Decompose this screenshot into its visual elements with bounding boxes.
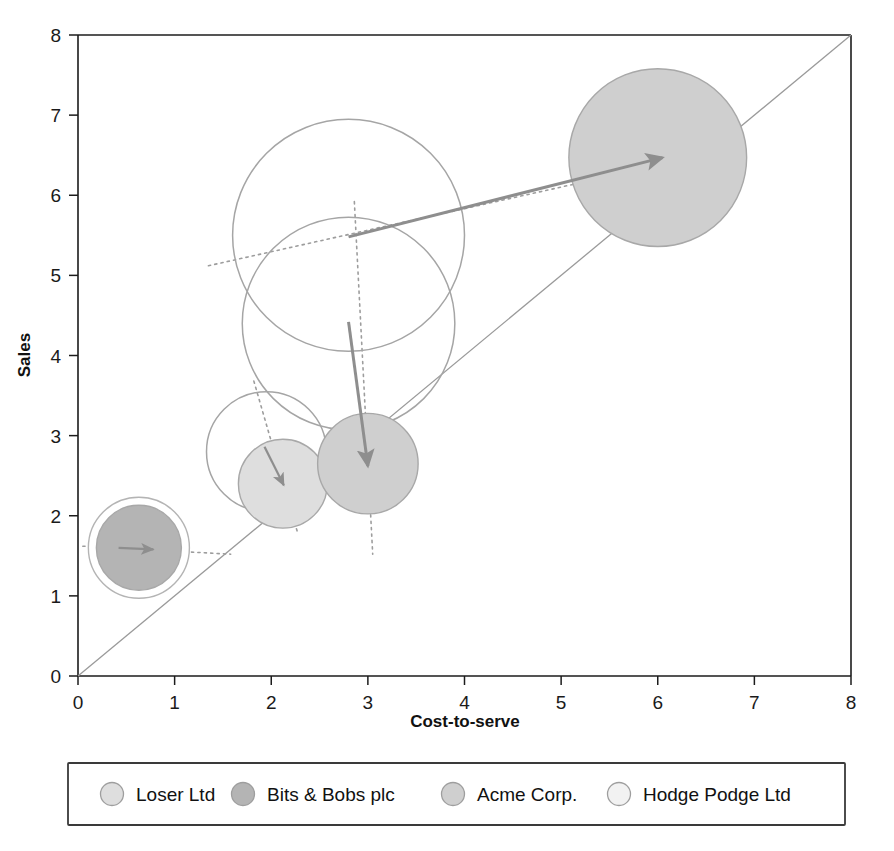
- y-tick-label-7: 7: [50, 105, 61, 126]
- y-tick-label-1: 1: [50, 586, 61, 607]
- legend-swatch-bits-bobs-plc: [232, 783, 255, 806]
- chart-canvas: 012345678012345678 Cost-to-serve Sales L…: [0, 0, 894, 851]
- bubble-hodge-podge-ltd-1[interactable]: [233, 119, 465, 351]
- x-tick-label-8: 8: [846, 692, 857, 713]
- legend-swatch-loser-ltd: [101, 783, 124, 806]
- legend-swatch-acme-corp: [442, 783, 465, 806]
- x-tick-label-3: 3: [363, 692, 374, 713]
- legend-item-loser-ltd[interactable]: Loser Ltd: [101, 783, 216, 806]
- x-tick-label-2: 2: [266, 692, 277, 713]
- y-tick-label-6: 6: [50, 185, 61, 206]
- legend-label-hodge-podge-ltd: Hodge Podge Ltd: [643, 784, 791, 805]
- y-tick-label-0: 0: [50, 666, 61, 687]
- legend-item-acme-corp[interactable]: Acme Corp.: [442, 783, 578, 806]
- y-tick-label-8: 8: [50, 25, 61, 46]
- x-axis-title: Cost-to-serve: [410, 712, 520, 731]
- y-axis-title: Sales: [15, 333, 34, 377]
- chart-legend: Loser LtdBits & Bobs plcAcme Corp.Hodge …: [68, 763, 845, 825]
- x-tick-label-0: 0: [73, 692, 84, 713]
- y-tick-label-4: 4: [50, 346, 61, 367]
- x-tick-label-1: 1: [169, 692, 180, 713]
- y-tick-label-3: 3: [50, 426, 61, 447]
- y-tick-label-2: 2: [50, 506, 61, 527]
- legend-swatch-hodge-podge-ltd: [608, 783, 631, 806]
- x-tick-label-4: 4: [459, 692, 470, 713]
- legend-label-acme-corp: Acme Corp.: [477, 784, 577, 805]
- legend-label-loser-ltd: Loser Ltd: [136, 784, 215, 805]
- x-tick-label-7: 7: [749, 692, 760, 713]
- y-tick-label-5: 5: [50, 265, 61, 286]
- x-tick-label-5: 5: [556, 692, 567, 713]
- bubbles: [88, 69, 746, 599]
- bubble-chart: 012345678012345678 Cost-to-serve Sales L…: [0, 0, 894, 851]
- legend-label-bits-bobs-plc: Bits & Bobs plc: [267, 784, 395, 805]
- x-tick-label-6: 6: [652, 692, 663, 713]
